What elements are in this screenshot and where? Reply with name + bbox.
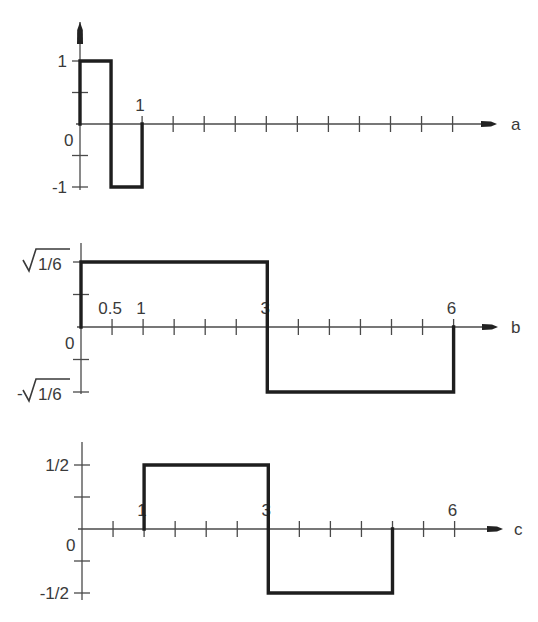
y-tick-label: -1 — [52, 178, 67, 197]
x-axis-label: b — [511, 318, 520, 337]
waveform-figure: a10-11b1/60-1/60.5136c1/20-1/2136 — [0, 0, 538, 622]
x-tick-label: 1 — [135, 96, 144, 115]
y-tick-label-sqrt: 1/6 — [23, 249, 70, 274]
y-tick-label: 1/2 — [45, 456, 69, 475]
panel-b: b1/60-1/60.5136 — [17, 243, 520, 404]
x-axis-arrow-icon — [487, 526, 503, 532]
y-tick-label: 1 — [58, 52, 67, 71]
y-tick-label: 1/6 — [38, 385, 62, 404]
y-tick-label: 0 — [64, 131, 73, 150]
y-tick-label: 0 — [65, 334, 74, 353]
x-tick-label: 1 — [136, 299, 145, 318]
y-tick-label-sign: - — [17, 384, 23, 403]
y-tick-label: 0 — [66, 536, 75, 555]
y-tick-label: 1/6 — [38, 255, 62, 274]
x-axis-arrow-icon — [481, 121, 497, 127]
panel-c: c1/20-1/2136 — [40, 442, 523, 603]
y-tick-label: -1/2 — [40, 584, 69, 603]
x-tick-label: 0.5 — [98, 299, 122, 318]
y-axis-arrow-icon — [77, 22, 83, 44]
x-axis-label: a — [511, 115, 521, 134]
x-axis-label: c — [514, 520, 523, 539]
x-tick-label: 6 — [448, 501, 457, 520]
y-tick-label-sqrt: -1/6 — [17, 379, 70, 404]
panel-a: a10-11 — [52, 22, 521, 197]
x-tick-label: 6 — [447, 299, 456, 318]
x-axis-arrow-icon — [482, 324, 498, 330]
